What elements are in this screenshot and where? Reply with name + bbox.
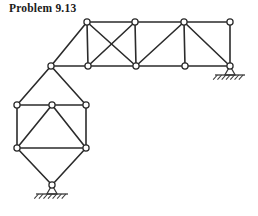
bottom-chord-joint-3 [182,63,188,69]
bottom-chord-joint-1 [85,63,91,69]
top-chord-joint-2 [132,19,138,25]
lower-panel-joint-left-lower [14,145,20,151]
lower-panel-joint-right-upper [83,102,89,108]
bottom-chord-joint-right-support [227,63,233,69]
support-strut-right [52,148,86,185]
ground-hatch-tick [62,194,66,199]
lower-panel-diagonal-right [52,105,86,148]
support-strut-left [17,148,52,185]
vertical-member-2 [135,22,136,66]
lower-panel-apex-joint [49,102,55,108]
bottom-chord-joint-2 [133,63,139,69]
diagonal-member-4 [136,22,184,66]
upper-left-chord-member [17,66,51,105]
ground-hatch-tick [230,75,234,80]
ground-hatch-tick [226,75,230,80]
ground-hatch-tick [57,194,61,199]
bottom-pin-support-joint [49,182,55,188]
ground-hatch-tick [39,194,43,199]
truss-joints-group [14,19,233,188]
truss-supports-group [34,66,245,199]
ground-hatch-tick [217,75,221,80]
top-chord-joint-3 [181,19,187,25]
ground-hatch-tick [43,194,47,199]
ground-hatch-tick [34,194,38,199]
ground-hatch-tick [48,194,52,199]
ground-hatch-tick [239,75,243,80]
top-chord-joint-1 [84,19,90,25]
ground-hatch-tick [213,75,217,80]
top-chord-joint-4 [227,19,233,25]
corner-joint-left [48,63,54,69]
diagonal-member-1 [51,22,87,66]
diagonal-member-5 [184,22,230,66]
upper-right-chord-member [51,66,86,105]
vertical-member-1 [87,22,88,66]
ground-hatch-tick [222,75,226,80]
lower-panel-joint-right-lower [83,145,89,151]
vertical-member-3 [184,22,185,66]
truss-diagram-svg [0,0,258,216]
truss-figure [0,0,258,216]
ground-hatch-tick [53,194,57,199]
lower-panel-joint-left-upper [14,102,20,108]
ground-hatch-tick [235,75,239,80]
lower-panel-diagonal-left [17,105,52,148]
